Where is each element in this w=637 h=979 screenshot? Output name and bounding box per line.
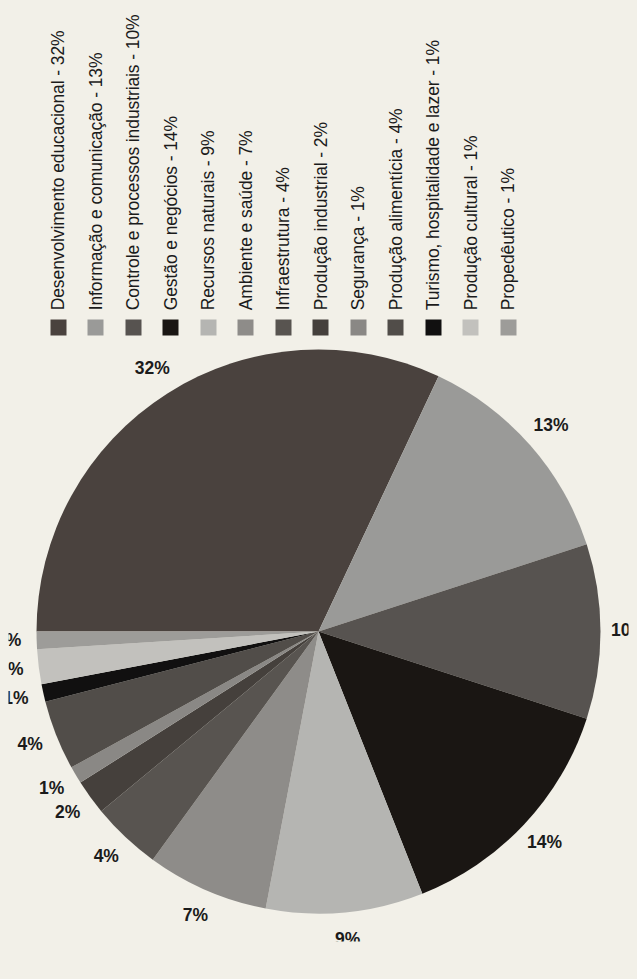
pie-slices xyxy=(36,349,600,913)
legend-item-label: Produção cultural - 1% xyxy=(460,135,481,310)
pie-value-label: 10% xyxy=(610,620,628,640)
legend-item-label: Segurança - 1% xyxy=(347,186,368,310)
legend-swatch-icon xyxy=(200,319,216,335)
pie-value-label: 13% xyxy=(533,415,568,435)
legend-item: Informação e comunicação - 13% xyxy=(78,14,114,335)
legend-item-label: Propedêutico - 1% xyxy=(497,168,518,310)
legend-item: Desenvolvimento educacional - 32% xyxy=(40,14,76,335)
legend-item: Recursos naturais - 9% xyxy=(190,14,226,335)
legend-swatch-icon xyxy=(425,319,441,335)
legend-swatch-icon xyxy=(500,319,516,335)
legend-item: Produção cultural - 1% xyxy=(453,14,489,335)
legend-item-label: Informação e comunicação - 13% xyxy=(85,52,106,310)
legend-item-label: Recursos naturais - 9% xyxy=(197,130,218,310)
legend-swatch-icon xyxy=(350,319,366,335)
legend-item: Infraestrutura - 4% xyxy=(265,14,301,335)
pie-value-label: 1% xyxy=(8,687,29,707)
legend-swatch-icon xyxy=(387,319,403,335)
legend-swatch-icon xyxy=(162,319,178,335)
pie-value-label: 14% xyxy=(526,832,561,852)
pie-value-label: 4% xyxy=(17,734,43,754)
legend-swatch-icon xyxy=(275,319,291,335)
legend-item: Produção industrial - 2% xyxy=(303,14,339,335)
pie-svg: 32%13%10%14%9%7%4%2%1%4%1%2%1% xyxy=(8,321,628,941)
pie-chart: 32%13%10%14%9%7%4%2%1%4%1%2%1% xyxy=(8,321,628,941)
legend-item-label: Gestão e negócios - 14% xyxy=(160,116,181,310)
pie-chart-figure: 32%13%10%14%9%7%4%2%1%4%1%2%1% Desenvolv… xyxy=(0,0,637,979)
pie-value-label: 4% xyxy=(93,846,119,866)
legend: Desenvolvimento educacional - 32%Informa… xyxy=(40,14,526,335)
pie-value-label: 9% xyxy=(335,928,361,941)
pie-value-label: 32% xyxy=(134,358,169,378)
legend-item-label: Controle e processos industriais - 10% xyxy=(122,14,143,310)
legend-item: Turismo, hospitalidade e lazer - 1% xyxy=(415,14,451,335)
legend-item: Ambiente e saúde - 7% xyxy=(228,14,264,335)
legend-item: Segurança - 1% xyxy=(340,14,376,335)
legend-item-label: Ambiente e saúde - 7% xyxy=(235,130,256,310)
pie-value-label: 2% xyxy=(55,802,81,822)
legend-item-label: Produção industrial - 2% xyxy=(310,122,331,310)
pie-value-label: 1% xyxy=(39,777,65,797)
legend-item: Gestão e negócios - 14% xyxy=(153,14,189,335)
legend-swatch-icon xyxy=(312,319,328,335)
legend-item-label: Produção alimentícia - 4% xyxy=(385,108,406,310)
legend-item: Propedêutico - 1% xyxy=(490,14,526,335)
legend-swatch-icon xyxy=(50,319,66,335)
pie-value-label: 7% xyxy=(182,904,208,924)
legend-swatch-icon xyxy=(125,319,141,335)
legend-swatch-icon xyxy=(462,319,478,335)
legend-item-label: Infraestrutura - 4% xyxy=(272,167,293,310)
legend-swatch-icon xyxy=(87,319,103,335)
legend-item: Controle e processos industriais - 10% xyxy=(115,14,151,335)
pie-value-label: 2% xyxy=(8,658,24,678)
legend-swatch-icon xyxy=(237,319,253,335)
legend-item: Produção alimentícia - 4% xyxy=(378,14,414,335)
legend-item-label: Turismo, hospitalidade e lazer - 1% xyxy=(422,40,443,310)
legend-item-label: Desenvolvimento educacional - 32% xyxy=(47,30,68,310)
pie-value-label: 1% xyxy=(8,629,21,649)
